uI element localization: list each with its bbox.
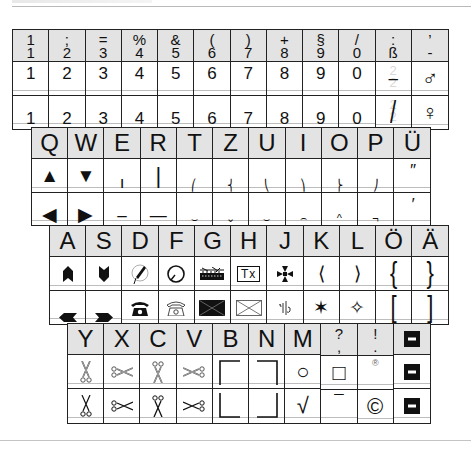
key-apostrophe[interactable]: ’- ♂ ♀ (412, 30, 448, 129)
brace-part-char: ⎨ (227, 180, 235, 191)
key-o[interactable]: O ⎬ ^ (322, 128, 358, 225)
key-comma[interactable]: ?, □ ¯ (321, 324, 357, 423)
key-e[interactable]: E ı – (104, 128, 140, 225)
key-s[interactable]: S (86, 226, 122, 324)
key-c[interactable]: C (140, 324, 176, 423)
telephone-filled-icon (130, 300, 150, 316)
brace-part-char: ⎞ (300, 180, 306, 191)
key-v[interactable]: V (177, 324, 213, 423)
brace-part-char: ⎝ (264, 180, 270, 191)
sub-char: 7 (243, 65, 252, 82)
key-label: L (340, 226, 375, 257)
key-label: B (213, 324, 248, 355)
key-z[interactable]: Z ⎨ ⌄ (213, 128, 249, 225)
teleprinter-icon (198, 267, 226, 281)
key-h[interactable]: H Tx (231, 226, 267, 324)
key-ae[interactable]: Ä } ] (412, 226, 448, 324)
key-y[interactable]: Y (68, 324, 104, 423)
sub-char: 6 (207, 65, 216, 82)
key-a[interactable]: A (50, 226, 86, 324)
brace-part-char: ⌣ (191, 213, 198, 224)
top-rule (12, 6, 471, 7)
prime-char: ′ (411, 196, 414, 213)
copyright-char: © (367, 396, 383, 418)
key-t[interactable]: T ⎛ ⌣ (177, 128, 213, 225)
key-lower: 0 (353, 46, 361, 59)
sub-char: 8 (280, 110, 289, 127)
long-bar-char: | (155, 165, 161, 187)
brace-part-char: ⎬ (335, 180, 343, 191)
key-8[interactable]: +8 8 8 (267, 30, 303, 129)
key-j[interactable]: J (267, 226, 303, 324)
key-w[interactable]: W ▼ ▶ (68, 128, 104, 225)
key-3[interactable]: =3 3 3 (86, 30, 122, 129)
cropped-caption (12, 0, 152, 3)
dash-char: – (388, 70, 397, 87)
scissors-vertical-outline-icon (80, 361, 92, 383)
key-l[interactable]: L ⟩ ✧ (340, 226, 376, 324)
scissors-vertical-icon (80, 395, 92, 417)
six-point-star-icon: ✶ (313, 298, 329, 317)
key-label: W (68, 128, 103, 159)
key-label: I (286, 128, 321, 159)
key-x[interactable]: X (104, 324, 140, 423)
telephone-outline-icon (166, 300, 186, 316)
key-m[interactable]: M ○ √ (285, 324, 321, 423)
key-5[interactable]: &5 5 5 (158, 30, 194, 129)
key-b[interactable]: B (213, 324, 249, 423)
brace-part-char: ⎛ (191, 180, 197, 191)
key-label: X (104, 324, 139, 355)
key-eszett[interactable]: :ß 22 – 22 / (376, 30, 412, 129)
key-4[interactable]: %4 4 4 (122, 30, 158, 129)
key-p[interactable]: P ⎠ ¬ (358, 128, 394, 225)
key-period[interactable]: !. ® © (358, 324, 394, 423)
key-g[interactable]: G (195, 226, 231, 324)
key-9[interactable]: §9 9 9 (303, 30, 339, 129)
number-row: 11 1 1 ;2 2 2 =3 3 3 %4 4 4 &5 5 5 (6 6 … (12, 29, 449, 130)
key-i[interactable]: I ⎞ ⌢ (286, 128, 322, 225)
key-u[interactable]: U ⎝ ⌣ (249, 128, 285, 225)
sub-char: 3 (98, 65, 107, 82)
key-2[interactable]: ;2 2 2 (49, 30, 85, 129)
corner-top-right-icon (255, 359, 279, 385)
key-lower: . (373, 340, 377, 353)
ligature-sign-icon (277, 301, 293, 315)
triangle-up-icon: ▲ (40, 166, 59, 185)
envelope-outline-icon (236, 300, 262, 316)
key-7[interactable]: )7 7 7 (231, 30, 267, 129)
not-sign-char: ¬ (372, 213, 378, 224)
key-n[interactable]: N (249, 324, 285, 423)
key-r[interactable]: R | — (141, 128, 177, 225)
envelope-filled-icon (199, 300, 225, 316)
scissors-horizontal-outline-icon (111, 366, 133, 378)
key-label: J (267, 226, 302, 257)
key-1[interactable]: 11 1 1 (13, 30, 49, 129)
key-ue[interactable]: Ü ″ ′ (394, 128, 430, 225)
key-label: T (177, 128, 212, 159)
key-oe[interactable]: Ö { [ (376, 226, 412, 324)
sub-char: 4 (135, 110, 144, 127)
handset-circle-icon (130, 263, 150, 285)
key-0[interactable]: /0 0 0 (339, 30, 375, 129)
key-k[interactable]: K ⟨ ✶ (304, 226, 340, 324)
key-6[interactable]: (6 6 6 (194, 30, 230, 129)
curly-brace-right-char: } (427, 259, 434, 288)
double-prime-char: ″ (409, 162, 415, 179)
key-d[interactable]: D (122, 226, 158, 324)
key-q[interactable]: Q ▲ ◀ (32, 128, 68, 225)
key-label: Z (213, 128, 248, 159)
qwertz-row: Q ▲ ◀ W ▼ ▶ E ı – R | — T ⎛ ⌣ Z ⎨ ⌄ U ⎝ … (31, 127, 431, 226)
key-label: M (285, 324, 320, 355)
key-label: A (50, 226, 85, 257)
sub-char: 1 (26, 65, 35, 82)
square-bracket-left-char: [ (391, 293, 397, 322)
key-lower: 1 (26, 46, 34, 59)
scissors-horizontal-icon (111, 400, 133, 412)
block-key-label (394, 324, 430, 355)
key-label: G (195, 226, 230, 257)
key-block[interactable] (394, 324, 430, 423)
key-label: H (231, 226, 266, 257)
key-label: S (86, 226, 121, 257)
key-f[interactable]: F (159, 226, 195, 324)
key-lower: , (337, 340, 341, 353)
